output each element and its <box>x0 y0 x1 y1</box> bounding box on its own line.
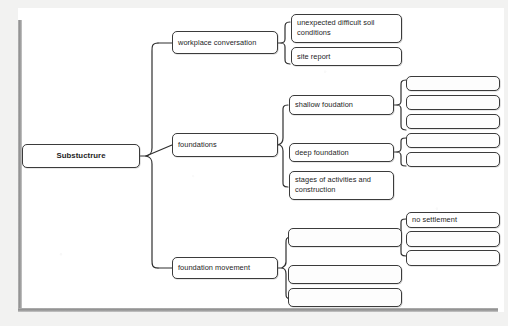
node-foundations[interactable]: foundations <box>172 133 278 157</box>
node-no-settlement[interactable]: no settlement <box>406 212 500 228</box>
node-foundation-movement[interactable]: foundation movement <box>172 257 278 279</box>
node-shallow-child-3[interactable] <box>406 114 500 129</box>
node-substuctrure[interactable]: Substuctrure <box>22 144 140 168</box>
frame-vertical-line <box>18 20 22 312</box>
frame-horizontal-line <box>18 308 498 312</box>
node-shallow-child-1[interactable] <box>406 76 500 91</box>
node-label: Substuctrure <box>56 151 105 161</box>
node-settlement-child-2[interactable] <box>406 231 500 247</box>
node-shallow-child-2[interactable] <box>406 95 500 110</box>
node-site-report[interactable]: site report <box>291 47 402 66</box>
node-workplace-conversation[interactable]: workplace conversation <box>172 31 278 54</box>
node-deep-child-1[interactable] <box>406 133 500 148</box>
node-shallow-foudation[interactable]: shallow foudation <box>289 95 394 115</box>
node-label: shallow foudation <box>295 100 353 110</box>
node-label: unexpected difficult soil conditions <box>297 18 396 38</box>
node-label: foundation movement <box>178 263 250 273</box>
node-label: no settlement <box>412 215 457 225</box>
node-movement-child-2[interactable] <box>288 265 402 284</box>
node-settlement-child-3[interactable] <box>406 250 500 266</box>
node-movement-child-3[interactable] <box>288 288 402 307</box>
node-deep-foundation[interactable]: deep foundation <box>289 143 394 162</box>
node-movement-child-1[interactable] <box>288 228 402 247</box>
node-label: workplace conversation <box>178 38 256 48</box>
node-deep-child-2[interactable] <box>406 152 500 167</box>
node-stages-of-activities-and-construction[interactable]: stages of activities and construction <box>289 171 394 200</box>
node-label: deep foundation <box>295 148 349 158</box>
node-unexpected-difficult-soil-conditions[interactable]: unexpected difficult soil conditions <box>291 14 402 43</box>
diagram-canvas: Substuctrure workplace conversation foun… <box>0 0 508 326</box>
node-label: site report <box>297 52 330 62</box>
node-label: stages of activities and construction <box>295 175 388 195</box>
node-label: foundations <box>178 140 217 150</box>
